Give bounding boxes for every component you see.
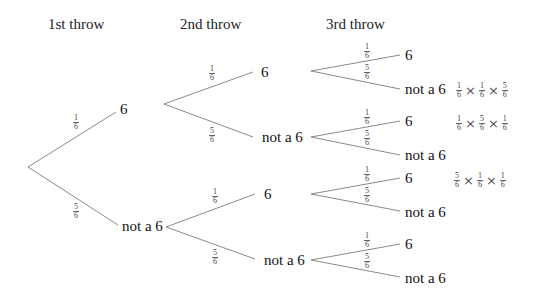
node-1-six: 6 [120, 102, 128, 117]
prob-3a-not-six: 56 [364, 64, 370, 81]
prob-3b-six: 16 [364, 109, 370, 126]
branch-1-six [28, 112, 116, 167]
node-3b-not-six: not a 6 [405, 148, 446, 163]
prob-2b-six: 16 [212, 188, 218, 205]
prob-3c-not-six: 56 [364, 187, 370, 204]
prob-2b-not-six: 56 [212, 249, 218, 266]
node-2b-not-six: not a 6 [264, 253, 305, 268]
node-1-not-six: not a 6 [122, 219, 163, 234]
branch-2b-not-six [166, 227, 255, 259]
prob-2a-six: 16 [209, 65, 215, 82]
node-2a-six: 6 [261, 65, 269, 80]
prob-1-not-six: 56 [73, 203, 79, 220]
node-2a-not-six: not a 6 [262, 130, 303, 145]
header-1st-throw: 1st throw [48, 16, 104, 33]
node-3d-six: 6 [405, 237, 413, 252]
product-expression-2: 16 × 56 × 16 [456, 115, 508, 132]
branch-2b-six [166, 194, 255, 227]
product-expression-1: 16 × 16 × 56 [456, 82, 508, 99]
node-3c-six: 6 [405, 171, 413, 186]
node-2b-six: 6 [264, 187, 272, 202]
prob-1-six: 16 [73, 114, 79, 131]
node-3a-six: 6 [405, 48, 413, 63]
prob-3d-not-six: 56 [364, 253, 370, 270]
product-expression-3: 56 × 16 × 16 [454, 172, 506, 189]
prob-3a-six: 16 [364, 43, 370, 60]
node-3c-not-six: not a 6 [405, 205, 446, 220]
prob-3c-six: 16 [364, 166, 370, 183]
header-3rd-throw: 3rd throw [326, 16, 385, 33]
prob-3d-six: 16 [364, 232, 370, 249]
node-3a-not-six: not a 6 [405, 82, 446, 97]
node-3b-six: 6 [405, 114, 413, 129]
prob-3b-not-six: 56 [364, 130, 370, 147]
prob-2a-not-six: 56 [209, 127, 215, 144]
node-3d-not-six: not a 6 [405, 271, 446, 286]
header-2nd-throw: 2nd throw [180, 16, 241, 33]
